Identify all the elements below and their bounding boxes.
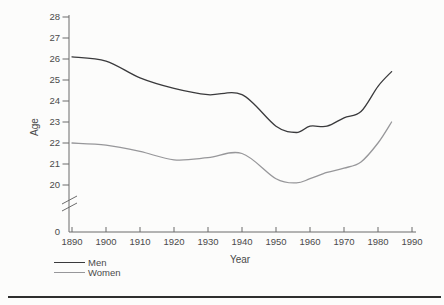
x-tick-label: 1960 xyxy=(299,236,320,247)
x-tick-label: 1990 xyxy=(401,236,422,247)
x-tick-label: 1930 xyxy=(197,236,218,247)
y-tick-label: 27 xyxy=(49,32,60,43)
median-age-marriage-figure: 2827262524232221200189019001910192019301… xyxy=(0,0,444,305)
legend-label-women: Women xyxy=(88,267,121,278)
y-tick-label: 28 xyxy=(49,11,60,22)
y-origin-label: 0 xyxy=(55,226,60,237)
y-tick-label: 23 xyxy=(49,116,60,127)
x-tick-label: 1980 xyxy=(367,236,388,247)
x-tick-label: 1910 xyxy=(129,236,150,247)
page-divider-rule xyxy=(8,296,441,298)
women-line-swatch xyxy=(54,272,85,273)
men-line-swatch xyxy=(54,262,85,263)
x-tick-label: 1890 xyxy=(61,236,82,247)
x-axis-title: Year xyxy=(230,254,250,265)
y-tick-label: 21 xyxy=(49,158,60,169)
y-tick-label: 20 xyxy=(49,179,60,190)
x-tick-label: 1940 xyxy=(231,236,252,247)
legend-item-men: Men xyxy=(54,258,121,267)
women-line xyxy=(72,122,392,183)
y-tick-label: 24 xyxy=(49,95,60,106)
men-line xyxy=(72,57,392,133)
y-axis-title: Age xyxy=(29,118,40,136)
x-tick-label: 1970 xyxy=(333,236,354,247)
legend: Men Women xyxy=(54,258,121,277)
y-tick-label: 25 xyxy=(49,74,60,85)
x-tick-label: 1920 xyxy=(163,236,184,247)
x-tick-label: 1950 xyxy=(265,236,286,247)
legend-item-women: Women xyxy=(54,268,121,277)
x-tick-label: 1900 xyxy=(95,236,116,247)
y-tick-label: 26 xyxy=(49,53,60,64)
y-tick-label: 22 xyxy=(49,137,60,148)
